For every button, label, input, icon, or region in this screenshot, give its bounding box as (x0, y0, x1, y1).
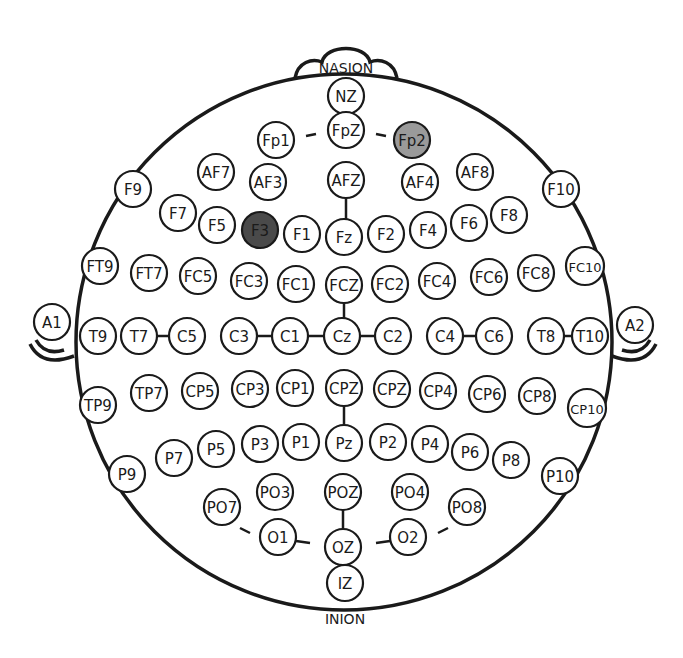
electrode-a2[interactable]: A2 (617, 307, 653, 343)
electrode-fpz[interactable]: FpZ (328, 112, 364, 148)
electrode-tp9[interactable]: TP9 (80, 387, 116, 423)
electrode-p5[interactable]: P5 (198, 431, 234, 467)
electrode-label: P3 (251, 436, 270, 454)
electrode-p2[interactable]: P2 (370, 424, 406, 460)
electrode-fc8[interactable]: FC8 (518, 255, 554, 291)
electrode-af7[interactable]: AF7 (198, 154, 234, 190)
electrode-label: FC1 (282, 276, 311, 294)
electrode-po3[interactable]: PO3 (257, 474, 293, 510)
electrode-cpz[interactable]: CPZ (374, 371, 410, 407)
electrode-cpz[interactable]: CPZ (326, 370, 362, 406)
electrode-p10[interactable]: P10 (542, 458, 578, 494)
electrode-label: F4 (419, 222, 437, 240)
electrode-pz[interactable]: Pz (326, 425, 362, 461)
electrode-c2[interactable]: C2 (375, 318, 411, 354)
electrode-fcz[interactable]: FCZ (326, 267, 362, 303)
inion-label: INION (325, 611, 365, 627)
electrode-fc6[interactable]: FC6 (471, 259, 507, 295)
electrode-fc1[interactable]: FC1 (278, 266, 314, 302)
electrode-c4[interactable]: C4 (427, 318, 463, 354)
electrode-c1[interactable]: C1 (272, 318, 308, 354)
electrode-fc4[interactable]: FC4 (419, 263, 455, 299)
electrode-poz[interactable]: POZ (325, 474, 361, 510)
electrode-t8[interactable]: T8 (528, 318, 564, 354)
electrode-label: NZ (335, 88, 357, 106)
electrode-f2[interactable]: F2 (368, 216, 404, 252)
electrode-label: AF8 (461, 164, 489, 182)
electrode-cp6[interactable]: CP6 (469, 376, 505, 412)
left-ear-icon (30, 340, 74, 360)
electrode-cz[interactable]: Cz (324, 318, 360, 354)
electrode-af4[interactable]: AF4 (402, 164, 438, 200)
electrode-cp8[interactable]: CP8 (519, 378, 555, 414)
electrode-po8[interactable]: PO8 (449, 489, 485, 525)
electrode-c6[interactable]: C6 (476, 318, 512, 354)
electrode-f6[interactable]: F6 (451, 205, 487, 241)
electrode-label: A1 (42, 314, 62, 332)
electrode-f7[interactable]: F7 (160, 195, 196, 231)
electrode-po7[interactable]: PO7 (204, 489, 240, 525)
electrode-ft9[interactable]: FT9 (82, 248, 118, 284)
electrode-iz[interactable]: IZ (327, 565, 363, 601)
electrode-label: C5 (177, 328, 197, 346)
electrode-t7[interactable]: T7 (121, 318, 157, 354)
electrode-label: POZ (327, 484, 358, 502)
electrode-o2[interactable]: O2 (390, 519, 426, 555)
electrode-oz[interactable]: OZ (325, 529, 361, 565)
electrode-po4[interactable]: PO4 (392, 474, 428, 510)
electrode-nz[interactable]: NZ (328, 78, 364, 114)
electrode-label: CPZ (377, 381, 407, 399)
electrode-fc3[interactable]: FC3 (231, 263, 267, 299)
electrode-c5[interactable]: C5 (169, 318, 205, 354)
electrode-fc2[interactable]: FC2 (372, 266, 408, 302)
electrode-label: F10 (547, 181, 575, 199)
electrode-cp10[interactable]: CP10 (568, 389, 606, 427)
electrode-af3[interactable]: AF3 (250, 164, 286, 200)
electrode-f9[interactable]: F9 (115, 171, 151, 207)
electrode-p9[interactable]: P9 (109, 456, 145, 492)
electrode-label: CP10 (570, 402, 603, 417)
electrode-label: CP6 (472, 386, 501, 404)
electrode-p8[interactable]: P8 (493, 442, 529, 478)
electrode-f10[interactable]: F10 (543, 171, 579, 207)
electrode-f5[interactable]: F5 (199, 207, 235, 243)
electrode-fz[interactable]: Fz (326, 219, 362, 255)
electrode-p1[interactable]: P1 (283, 424, 319, 460)
electrode-label: T7 (129, 328, 149, 346)
electrode-label: F7 (169, 205, 187, 223)
electrode-p4[interactable]: P4 (412, 426, 448, 462)
electrode-label: P5 (207, 441, 226, 459)
electrode-cp5[interactable]: CP5 (182, 373, 218, 409)
electrode-f3[interactable]: F3 (242, 212, 278, 248)
electrode-o1[interactable]: O1 (260, 519, 296, 555)
electrode-p6[interactable]: P6 (452, 434, 488, 470)
electrode-cp3[interactable]: CP3 (232, 371, 268, 407)
electrode-c3[interactable]: C3 (221, 318, 257, 354)
electrode-f1[interactable]: F1 (284, 216, 320, 252)
electrode-a1[interactable]: A1 (34, 304, 70, 340)
electrode-ft7[interactable]: FT7 (131, 255, 167, 291)
electrode-f4[interactable]: F4 (410, 212, 446, 248)
electrode-af8[interactable]: AF8 (457, 154, 493, 190)
electrode-label: P7 (165, 450, 184, 468)
electrode-p3[interactable]: P3 (242, 426, 278, 462)
electrode-label: AFZ (331, 172, 360, 190)
electrode-fc5[interactable]: FC5 (180, 258, 216, 294)
electrode-fp1[interactable]: Fp1 (258, 122, 294, 158)
electrode-afz[interactable]: AFZ (328, 162, 364, 198)
electrode-f8[interactable]: F8 (491, 197, 527, 233)
electrode-fp2[interactable]: Fp2 (394, 122, 430, 158)
electrode-p7[interactable]: P7 (156, 440, 192, 476)
electrode-label: FC2 (376, 276, 405, 294)
electrode-cp4[interactable]: CP4 (420, 373, 456, 409)
electrode-t10[interactable]: T10 (572, 318, 608, 354)
electrode-cp1[interactable]: CP1 (277, 370, 313, 406)
eeg-diagram: NZFpZFp1Fp2AF7AF3AFZAF4AF8F9F10F7F5F3F1F… (0, 0, 683, 658)
electrode-label: Cz (333, 328, 351, 346)
electrode-label: PO8 (452, 499, 482, 517)
electrode-label: CP4 (423, 383, 452, 401)
electrode-label: FC4 (423, 273, 452, 291)
electrode-tp7[interactable]: TP7 (131, 375, 167, 411)
electrode-fc10[interactable]: FC10 (566, 247, 604, 285)
electrode-t9[interactable]: T9 (80, 318, 116, 354)
